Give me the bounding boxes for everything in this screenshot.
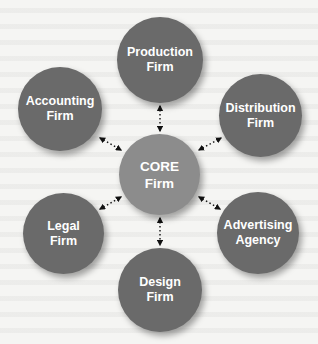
connector-core-accounting bbox=[100, 138, 121, 150]
node-label-line1: Design bbox=[139, 275, 181, 290]
node-label-line2: Firm bbox=[146, 290, 173, 305]
node-label-line2: Firm bbox=[146, 60, 173, 75]
node-core-firm: CORE Firm bbox=[119, 134, 200, 215]
node-distribution-firm: Distribution Firm bbox=[219, 74, 302, 157]
node-label-line1: Legal bbox=[47, 219, 80, 234]
node-legal-firm: Legal Firm bbox=[23, 193, 104, 274]
node-label-line2: Firm bbox=[46, 109, 73, 124]
diagram-canvas: Production Firm Accounting Firm Distribu… bbox=[0, 0, 318, 344]
node-design-firm: Design Firm bbox=[118, 248, 202, 332]
core-label-line2: Firm bbox=[145, 175, 174, 192]
node-label-line1: Advertising bbox=[224, 218, 293, 233]
node-label-line1: Production bbox=[127, 45, 193, 60]
node-label-line2: Firm bbox=[50, 234, 77, 249]
node-label-line1: Accounting bbox=[26, 94, 95, 109]
core-label-line1: CORE bbox=[140, 158, 179, 175]
connector-core-advertising bbox=[199, 197, 220, 209]
connector-core-distribution bbox=[199, 138, 221, 150]
node-advertising-agency: Advertising Agency bbox=[217, 192, 299, 274]
node-label-line2: Agency bbox=[235, 233, 280, 248]
node-production-firm: Production Firm bbox=[117, 17, 203, 103]
node-label-line1: Distribution bbox=[225, 101, 295, 116]
node-label-line2: Firm bbox=[247, 116, 274, 131]
connector-core-legal bbox=[100, 197, 121, 209]
node-accounting-firm: Accounting Firm bbox=[18, 67, 102, 151]
